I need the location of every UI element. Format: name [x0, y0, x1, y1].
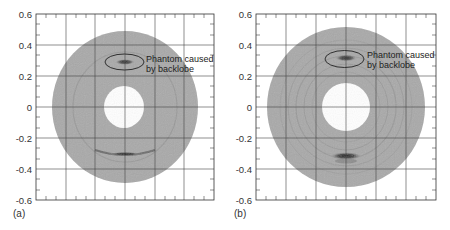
grid-a	[36, 14, 214, 200]
y-tick-label: -0.4	[16, 164, 32, 175]
y-tick-label: -0.6	[236, 195, 252, 206]
y-tick-label: -0.2	[16, 133, 32, 144]
y-axis-a: 0.6 0.4 0.2 0 -0.2 -0.4 -0.6	[16, 9, 32, 206]
y-tick-label: -0.6	[16, 195, 32, 206]
y-tick-label: 0.4	[239, 40, 252, 51]
annotation-line2-a: by backlobe	[146, 64, 194, 74]
y-tick-label: 0.2	[19, 71, 32, 82]
figure-canvas: 0.6 0.4 0.2 0 -0.2 -0.4 -0.6 Phantom cau…	[0, 0, 450, 230]
y-tick-label: 0.6	[239, 9, 252, 20]
y-tick-label: -0.4	[236, 164, 252, 175]
y-tick-label: 0.4	[19, 40, 32, 51]
panel-b: 0.6 0.4 0.2 0 -0.2 -0.4 -0.6 Phantom cau…	[234, 9, 436, 219]
y-tick-label: 0	[27, 102, 32, 113]
panel-label-a: (a)	[13, 208, 25, 219]
y-axis-b: 0.6 0.4 0.2 0 -0.2 -0.4 -0.6	[236, 9, 252, 206]
y-tick-label: 0	[247, 102, 252, 113]
annotation-line1-a: Phantom caused	[146, 54, 214, 64]
y-tick-label: 0.2	[239, 71, 252, 82]
panel-a: 0.6 0.4 0.2 0 -0.2 -0.4 -0.6 Phantom cau…	[13, 9, 214, 219]
y-tick-label: 0.6	[19, 9, 32, 20]
panel-label-b: (b)	[234, 208, 246, 219]
y-tick-label: -0.2	[236, 133, 252, 144]
annotation-line1-b: Phantom caused	[367, 50, 435, 60]
figure: 0.6 0.4 0.2 0 -0.2 -0.4 -0.6 Phantom cau…	[0, 0, 450, 230]
grid-b	[256, 14, 436, 200]
annotation-line2-b: by backlobe	[367, 60, 415, 70]
